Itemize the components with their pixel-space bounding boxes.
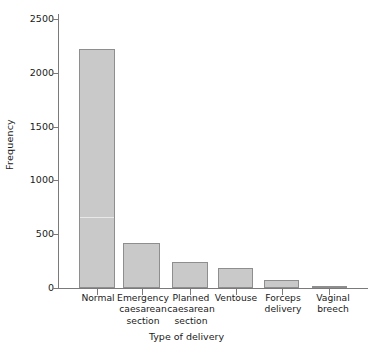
x-label-forceps-delivery-line-1: Forceps <box>256 292 310 303</box>
x-label-vaginal-breech: Vaginal breech <box>306 292 360 315</box>
x-axis-title: Type of delivery <box>0 331 373 342</box>
bar-forceps-delivery[interactable] <box>264 280 299 288</box>
bar-ventouse[interactable] <box>218 268 253 288</box>
bar-normal[interactable] <box>79 49 115 288</box>
x-label-vaginal-breech-line-1: Vaginal <box>306 292 360 303</box>
y-tick-0 <box>53 288 58 289</box>
bar-vaginal-breech[interactable] <box>312 286 347 288</box>
y-tick-500 <box>53 234 58 235</box>
x-axis-spine <box>58 288 368 289</box>
y-tick-label-1000: 1000 <box>30 175 54 185</box>
x-label-forceps-delivery: Forceps delivery <box>256 292 310 315</box>
y-tick-1000 <box>53 180 58 181</box>
plot-area <box>58 14 368 288</box>
y-tick-2500 <box>53 19 58 20</box>
bar-emergency-caesarean[interactable] <box>123 243 160 288</box>
x-label-planned-caesarean-line-3: section <box>162 315 220 326</box>
y-axis-tick-labels: 0 500 1000 1500 2000 2500 <box>0 0 54 300</box>
y-tick-label-2000: 2000 <box>30 68 54 78</box>
y-tick-1500 <box>53 127 58 128</box>
bar-seam-line <box>80 217 114 218</box>
x-label-planned-caesarean-line-2: caesarean <box>162 303 220 314</box>
y-tick-label-500: 500 <box>36 229 54 239</box>
y-tick-label-1500: 1500 <box>30 122 54 132</box>
x-label-vaginal-breech-line-2: breech <box>306 303 360 314</box>
bar-planned-caesarean[interactable] <box>172 262 208 288</box>
x-label-forceps-delivery-line-2: delivery <box>256 303 310 314</box>
y-tick-label-2500: 2500 <box>30 14 54 24</box>
y-tick-2000 <box>53 73 58 74</box>
bar-chart-figure: Frequency 0 500 1000 1500 2000 2500 <box>0 0 373 356</box>
y-axis-spine <box>58 14 59 288</box>
